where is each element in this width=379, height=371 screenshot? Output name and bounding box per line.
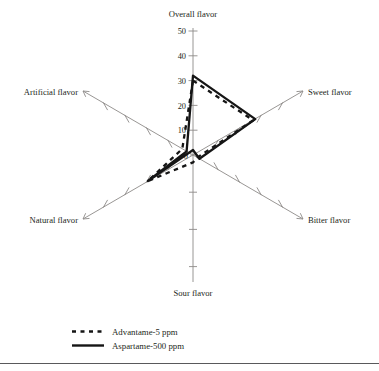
- radar-chart-figure: 50 40 30 20 10 0 Overall flavor Sweet fl…: [0, 0, 379, 371]
- axis-label-overall-flavor: Overall flavor: [169, 9, 218, 19]
- radar-chart-svg: 50 40 30 20 10 0 Overall flavor Sweet fl…: [0, 0, 379, 371]
- legend-label-advantame: Advantame-5 ppm: [112, 327, 178, 337]
- axis-bitter-flavor: [193, 155, 303, 219]
- axis-label-sour-flavor: Sour flavor: [174, 288, 213, 298]
- axis-label-bitter-flavor: Bitter flavor: [308, 215, 350, 225]
- chart-legend: Advantame-5 ppm Aspartame-500 ppm: [72, 327, 184, 351]
- axis-artificial-flavor: [83, 91, 193, 155]
- axis-label-natural-flavor: Natural flavor: [30, 215, 79, 225]
- axis-natural-flavor: [83, 155, 193, 219]
- axis-label-artificial-flavor: Artificial flavor: [24, 87, 78, 97]
- axis-label-sweet-flavor: Sweet flavor: [308, 87, 352, 97]
- legend-label-aspartame: Aspartame-500 ppm: [112, 341, 184, 351]
- tick-label-30: 30: [178, 77, 186, 86]
- tick-label-20: 20: [178, 102, 186, 111]
- tick-label-50: 50: [178, 27, 186, 36]
- tick-label-40: 40: [178, 52, 186, 61]
